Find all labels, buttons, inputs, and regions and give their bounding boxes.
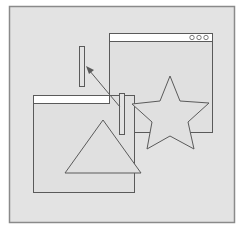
window-button-icon	[197, 35, 201, 39]
front-window-titlebar	[34, 96, 110, 104]
diagram-canvas	[0, 0, 242, 229]
window-button-icon	[190, 35, 194, 39]
bar-bottom	[120, 94, 125, 135]
window-button-icon	[204, 35, 208, 39]
bar-top	[80, 47, 85, 87]
